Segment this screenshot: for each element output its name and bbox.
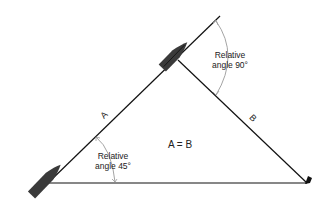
equality-label: A = B (160, 140, 200, 150)
angle-45-line1: Relative (86, 151, 140, 161)
angle-45-label: Relative angle 45° (86, 151, 140, 171)
angle-90-line2: angle 90° (203, 60, 257, 70)
diagram-graphic (0, 0, 329, 217)
doubling-angle-diagram: A B A = B Relative angle 90° Relative an… (0, 0, 329, 217)
angle-90-line1: Relative (203, 50, 257, 60)
angle-45-line2: angle 45° (86, 161, 140, 171)
landmark-icon (305, 176, 312, 184)
angle-90-label: Relative angle 90° (203, 50, 257, 70)
boat-start-icon (28, 161, 64, 198)
bearing-line-90-side-b (178, 60, 307, 183)
boat-later-icon (159, 39, 191, 72)
